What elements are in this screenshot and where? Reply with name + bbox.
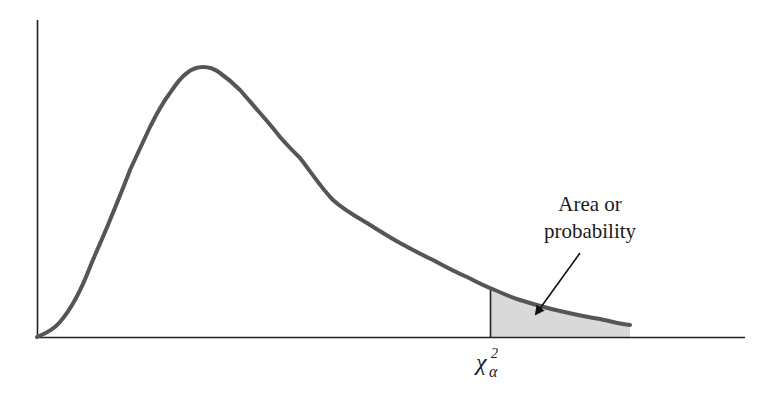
subscript-alpha: α bbox=[489, 363, 498, 380]
annotation-arrow bbox=[536, 253, 580, 314]
annotation-line-2: probability bbox=[544, 219, 637, 243]
critical-value-label: χ 2 α bbox=[474, 346, 498, 380]
annotation-line-1: Area or bbox=[558, 192, 622, 216]
chi-symbol: χ bbox=[474, 349, 488, 375]
chi-square-curve bbox=[37, 67, 630, 337]
chi-square-figure: Area or probability χ 2 α bbox=[0, 0, 774, 396]
superscript-two: 2 bbox=[491, 346, 498, 361]
